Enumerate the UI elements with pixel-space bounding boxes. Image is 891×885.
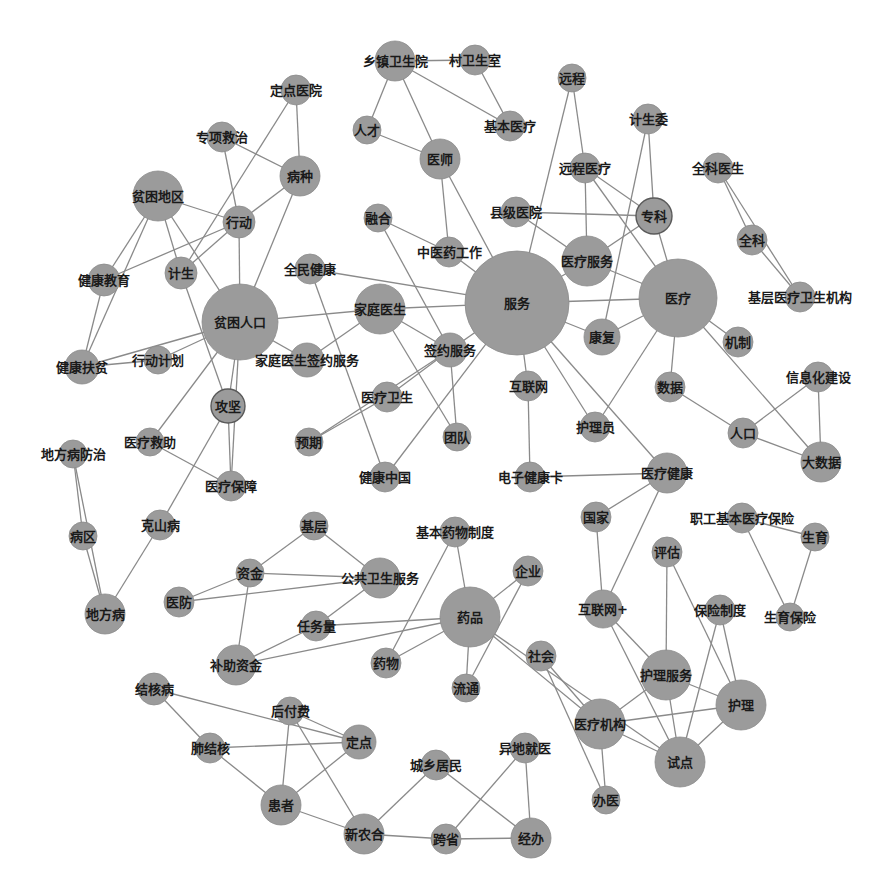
graph-node: 医疗机构: [574, 699, 626, 749]
node-label: 计生: [168, 266, 194, 281]
node-label: 专项救治: [196, 130, 248, 145]
node-label: 国家: [583, 510, 610, 525]
graph-node: 计生委: [629, 104, 668, 134]
graph-node: 健康扶贫: [56, 350, 109, 384]
node-label: 信息化建设: [786, 370, 852, 385]
graph-node: 医疗服务: [561, 236, 614, 286]
node-label: 远程医疗: [559, 161, 611, 176]
node-label: 医疗服务: [561, 254, 614, 269]
graph-node: 县级医院: [490, 197, 542, 227]
graph-node: 生育保险: [764, 603, 817, 631]
graph-node: 远程: [558, 64, 586, 92]
node-label: 预期: [296, 435, 322, 450]
edge: [742, 518, 790, 617]
edge: [386, 532, 455, 663]
graph-node: 互联网+: [578, 590, 628, 628]
edge: [210, 742, 359, 748]
node-label: 资金: [237, 566, 264, 581]
graph-node: 医疗: [639, 259, 717, 337]
node-label: 职工基本医疗保险: [690, 511, 795, 526]
node-label: 基层: [300, 519, 327, 534]
graph-node: 乡镇卫生院: [363, 41, 428, 81]
graph-node: 评估: [652, 537, 682, 567]
graph-node: 信息化建设: [786, 362, 852, 392]
node-label: 医师: [427, 152, 453, 167]
node-label: 社会: [527, 649, 555, 664]
node-label: 基本药物制度: [415, 525, 495, 540]
node-label: 评估: [654, 545, 680, 560]
node-label: 定点: [345, 735, 372, 750]
edge: [181, 90, 296, 273]
node-label: 肺结核: [191, 741, 230, 756]
graph-node: 职工基本医疗保险: [690, 503, 795, 533]
graph-node: 攻坚: [211, 389, 245, 423]
graph-node: 预期: [295, 428, 323, 456]
graph-node: 医疗健康: [641, 453, 694, 493]
graph-node: 计生: [165, 257, 197, 289]
graph-node: 结核病: [135, 673, 174, 705]
graph-node: 生育: [801, 523, 829, 551]
graph-node: 数据: [655, 372, 685, 402]
node-label: 远程: [559, 71, 585, 86]
node-label: 全科: [738, 233, 765, 248]
graph-node: 远程医疗: [559, 153, 611, 183]
graph-node: 新农合: [344, 814, 385, 854]
node-label: 健康教育: [78, 273, 130, 288]
node-label: 攻坚: [215, 399, 241, 414]
graph-node: 护理服务: [640, 650, 693, 700]
graph-node: 护理员: [576, 412, 615, 442]
graph-node: 家庭医生: [354, 284, 406, 334]
graph-node: 机制: [723, 327, 753, 357]
node-label: 贫困地区: [132, 189, 184, 204]
node-label: 行动: [225, 215, 252, 230]
node-label: 护理员: [576, 420, 615, 435]
node-label: 城乡居民: [410, 758, 462, 773]
node-label: 医疗卫生: [361, 390, 413, 405]
graph-node: 办医: [592, 786, 620, 814]
node-label: 克山病: [141, 518, 180, 533]
node-label: 新农合: [345, 827, 385, 842]
graph-node: 康复: [584, 319, 620, 355]
node-label: 护理服务: [640, 668, 693, 683]
node-label: 医疗保障: [205, 479, 257, 494]
graph-node: 地方病: [85, 594, 125, 634]
graph-node: 补助资金: [209, 645, 263, 685]
node-label: 专科: [641, 209, 667, 224]
network-graph: 服务医疗贫困人口药品贫困地区家庭医生医疗服务护理服务医疗机构试点护理公共卫生服务…: [0, 0, 891, 885]
node-label: 公共卫生服务: [341, 571, 420, 586]
graph-node: 电子健康卡: [498, 462, 563, 492]
node-label: 企业: [514, 564, 541, 579]
graph-node: 贫困人口: [202, 284, 278, 360]
node-label: 病区: [70, 529, 96, 544]
node-label: 基本医疗: [483, 119, 536, 134]
graph-node: 定点医院: [269, 75, 322, 105]
node-label: 患者: [268, 798, 294, 813]
graph-node: 基层医疗卫生机构: [747, 282, 852, 312]
node-label: 互联网+: [578, 602, 628, 617]
node-label: 医疗健康: [641, 466, 694, 481]
node-label: 保险制度: [693, 603, 747, 618]
graph-node: 村卫生室: [449, 45, 501, 75]
node-label: 基层医疗卫生机构: [747, 290, 852, 305]
node-label: 家庭医生签约服务: [255, 353, 360, 368]
node-label: 电子健康卡: [498, 470, 563, 485]
graph-node: 大数据: [801, 442, 841, 482]
graph-node: 城乡居民: [410, 750, 462, 780]
node-label: 后付费: [271, 704, 310, 719]
graph-node: 互联网: [509, 371, 548, 401]
graph-node: 试点: [655, 737, 705, 787]
node-label: 全科医生: [691, 161, 744, 176]
graph-node: 服务: [465, 251, 569, 355]
node-label: 全民健康: [283, 262, 337, 277]
graph-node: 患者: [261, 785, 301, 825]
graph-node: 药物: [371, 648, 401, 678]
graph-node: 克山病: [141, 510, 180, 540]
node-label: 家庭医生: [354, 302, 406, 317]
node-label: 流通: [453, 681, 479, 696]
graph-node: 基层: [300, 512, 328, 540]
graph-node: 保险制度: [693, 595, 747, 625]
graph-node: 人才: [353, 116, 381, 144]
graph-node: 社会: [526, 641, 556, 671]
node-label: 异地就医: [499, 741, 551, 756]
node-label: 医疗: [665, 291, 691, 306]
